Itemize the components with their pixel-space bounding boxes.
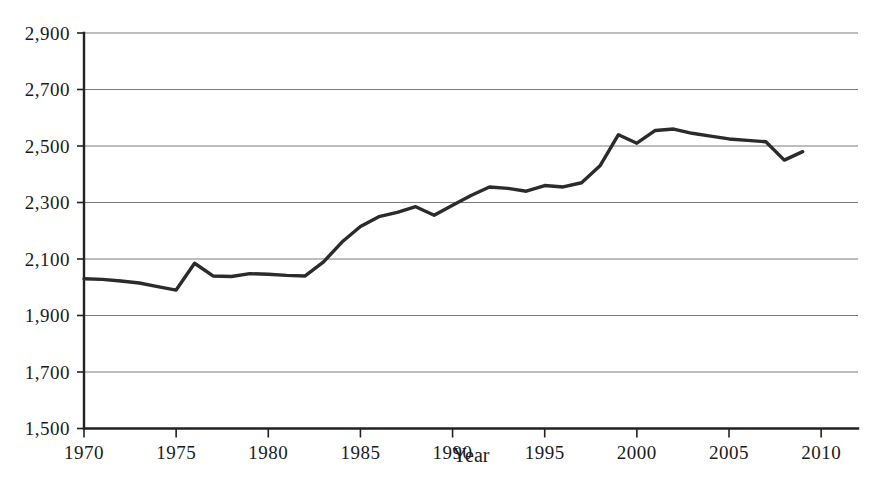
x-tick-label: 1970: [64, 442, 104, 463]
y-tick-label: 1,500: [25, 418, 70, 439]
x-tick-label: 2005: [709, 442, 749, 463]
data-series: [84, 129, 803, 290]
gridlines: [84, 33, 858, 372]
line-chart: 1,5001,7001,9002,1002,3002,5002,7002,900…: [0, 0, 885, 492]
y-tick-label: 1,700: [25, 362, 70, 383]
y-tick-label: 2,300: [25, 192, 70, 213]
y-tick-label: 2,900: [25, 23, 70, 44]
axis-lines: [84, 33, 858, 429]
x-tick-label: 1985: [340, 442, 380, 463]
y-tick-label: 1,900: [25, 305, 70, 326]
data-line-value: [84, 129, 803, 290]
y-tick-label: 2,700: [25, 79, 70, 100]
y-tick-label: 2,100: [25, 249, 70, 270]
y-axis-tick-labels: 1,5001,7001,9002,1002,3002,5002,7002,900: [25, 23, 70, 440]
x-axis-title: Year: [453, 444, 490, 466]
y-tick-label: 2,500: [25, 136, 70, 157]
chart-container: 1,5001,7001,9002,1002,3002,5002,7002,900…: [0, 0, 885, 492]
x-tick-label: 1980: [248, 442, 288, 463]
axis-ticks: [77, 33, 821, 438]
x-tick-label: 1995: [525, 442, 565, 463]
x-tick-label: 1975: [156, 442, 196, 463]
x-tick-label: 2010: [801, 442, 841, 463]
x-tick-label: 2000: [617, 442, 657, 463]
